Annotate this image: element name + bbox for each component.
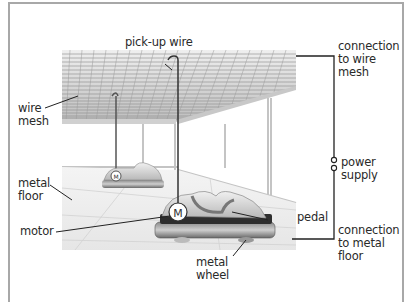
label-pedal: pedal [297,211,328,224]
wire-mesh-ceiling [62,50,296,124]
label-wire-mesh: wire mesh [18,102,49,128]
label-power-supply: power supply [341,156,378,182]
label-connection-wire-mesh: connection to wire mesh [338,40,399,79]
label-metal-floor: metal floor [18,177,50,203]
svg-text:M: M [173,207,183,220]
label-motor: motor [20,225,54,238]
svg-text:M: M [113,173,118,180]
label-metal-wheel: metal wheel [196,256,229,282]
label-pickup-wire: pick-up wire [125,36,193,49]
terminal-negative [331,165,336,170]
terminal-positive [331,157,336,162]
motor-symbol: M [169,203,187,221]
label-connection-metal-floor: connection to metal floor [338,224,399,263]
